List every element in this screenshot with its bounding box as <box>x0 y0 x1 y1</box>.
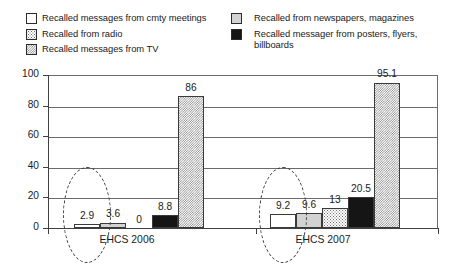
bar-value-label: 8.8 <box>158 201 172 212</box>
legend-column-right: Recalled from newspapers, magazinesRecal… <box>231 12 459 54</box>
legend-item-label: Recalled messager from posters, flyers, … <box>254 28 459 51</box>
bar-value-label: 13 <box>329 194 340 205</box>
bar-value-label: 9.2 <box>276 200 290 211</box>
y-axis-tick-mark <box>43 167 48 168</box>
bar <box>296 213 322 228</box>
bar-value-label: 0 <box>136 214 142 225</box>
y-axis-tick-mark <box>43 136 48 137</box>
legend-item-label: Recalled from radio <box>42 28 122 40</box>
bar-value-label: 95.1 <box>377 68 397 79</box>
y-axis-tick-mark <box>43 75 48 76</box>
y-axis-tick-label: 60 <box>5 129 39 140</box>
light-gray-square-icon <box>231 13 242 24</box>
chart-legend: Recalled messages from cmty meetingsReca… <box>0 0 462 66</box>
legend-item[interactable]: Recalled from radio <box>26 28 231 40</box>
legend-item-label: Recalled from newspapers, magazines <box>254 12 414 24</box>
y-axis-tick-label: 0 <box>5 221 39 232</box>
white-square-icon <box>26 13 37 24</box>
bar-value-label: 86 <box>185 82 196 93</box>
bar <box>322 208 348 228</box>
bar-value-label: 9.6 <box>302 199 316 210</box>
legend-item[interactable]: Recalled messages from cmty meetings <box>26 12 231 24</box>
legend-item[interactable]: Recalled messages from TV <box>26 43 231 55</box>
legend-item[interactable]: Recalled from newspapers, magazines <box>231 12 459 24</box>
bar <box>374 83 400 229</box>
bar <box>348 197 374 228</box>
dotted-square-icon <box>26 29 37 40</box>
x-axis-tick-mark <box>438 228 439 234</box>
bar <box>152 215 178 228</box>
y-axis-tick-mark <box>43 197 48 198</box>
bar-value-label: 3.6 <box>106 208 120 219</box>
x-axis-tick-mark <box>256 228 257 234</box>
black-square-icon <box>231 29 242 40</box>
y-axis-tick-mark <box>43 106 48 107</box>
chart-plot: 020406080100 2.93.608.8869.29.61320.595.… <box>0 66 462 274</box>
y-axis-line <box>48 75 49 229</box>
legend-item-label: Recalled messages from cmty meetings <box>42 12 206 24</box>
legend-item-label: Recalled messages from TV <box>42 43 158 55</box>
bar-value-label: 20.5 <box>351 183 371 194</box>
x-axis-group-label: EHCS 2006 <box>100 234 155 245</box>
x-axis-tick-mark <box>48 228 49 234</box>
bar <box>178 96 204 228</box>
x-axis-group-label: EHCS 2007 <box>296 234 351 245</box>
legend-item[interactable]: Recalled messager from posters, flyers, … <box>231 28 459 51</box>
bar <box>270 214 296 228</box>
y-axis-tick-label: 20 <box>5 190 39 201</box>
y-axis-tick-label: 40 <box>5 160 39 171</box>
x-axis-line <box>48 228 439 229</box>
bar-value-label: 2.9 <box>80 210 94 221</box>
legend-column-left: Recalled messages from cmty meetingsReca… <box>26 12 231 59</box>
plot-area <box>48 75 438 228</box>
y-axis-tick-label: 80 <box>5 99 39 110</box>
y-axis-tick-label: 100 <box>5 68 39 79</box>
checkered-square-icon <box>26 44 37 55</box>
